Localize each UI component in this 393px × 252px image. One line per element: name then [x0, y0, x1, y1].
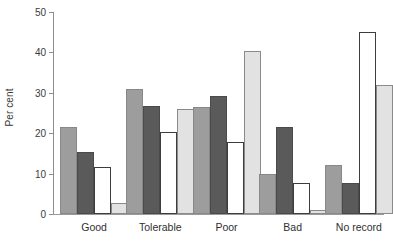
x-axis-label-bad: Bad	[283, 221, 302, 233]
x-axis-label-no-record: No record	[336, 221, 382, 233]
bar-series-1-no-record	[325, 165, 342, 214]
bar-series-2-poor	[210, 96, 227, 214]
bar-series-1-poor	[193, 107, 210, 214]
bar-series-1-good	[60, 127, 77, 214]
x-axis-label-poor: Poor	[215, 221, 237, 233]
y-axis-line	[53, 12, 54, 215]
bar-series-3-no-record	[359, 32, 376, 214]
bar-group	[193, 12, 261, 214]
x-axis-line	[53, 214, 384, 215]
bar-series-3-good	[94, 167, 111, 214]
y-tick-mark	[49, 12, 53, 13]
bar-group	[60, 12, 128, 214]
y-tick-mark	[49, 52, 53, 53]
y-axis-title: Per cent	[0, 0, 18, 215]
y-tick-mark	[49, 93, 53, 94]
bar-series-2-good	[77, 152, 94, 214]
x-axis-label-tolerable: Tolerable	[139, 221, 182, 233]
plot-area: 01020304050	[53, 12, 384, 215]
y-tick-mark	[49, 174, 53, 175]
bar-series-3-tolerable	[160, 132, 177, 214]
bar-series-3-poor	[227, 142, 244, 214]
y-tick-label: 50	[35, 7, 46, 18]
x-axis-label-good: Good	[81, 221, 107, 233]
y-tick-label: 40	[35, 47, 46, 58]
bar-series-2-tolerable	[143, 106, 160, 214]
y-axis-title-text: Per cent	[4, 88, 15, 126]
y-tick-label: 0	[40, 209, 46, 220]
y-tick-label: 10	[35, 168, 46, 179]
bar-series-2-no-record	[342, 183, 359, 214]
y-tick-label: 20	[35, 128, 46, 139]
y-tick-label: 30	[35, 87, 46, 98]
bar-series-3-bad	[293, 183, 310, 214]
bar-series-2-bad	[276, 127, 293, 214]
y-tick-mark	[49, 214, 53, 215]
bar-series-1-tolerable	[126, 89, 143, 214]
bar-group	[259, 12, 327, 214]
bar-group	[126, 12, 194, 214]
bar-series-4-no-record	[376, 85, 393, 214]
bar-group	[325, 12, 393, 214]
y-tick-mark	[49, 133, 53, 134]
bar-series-1-bad	[259, 174, 276, 214]
